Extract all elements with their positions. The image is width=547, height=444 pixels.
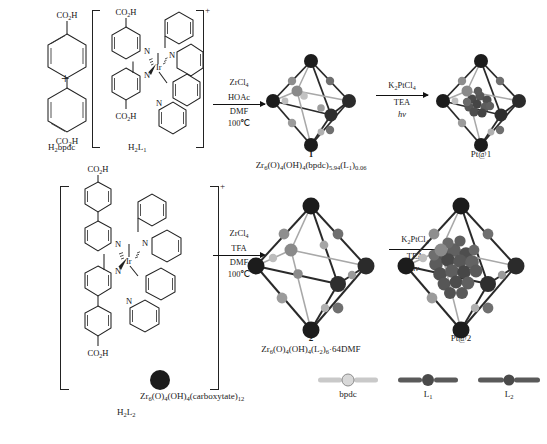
arrow2a-solvent: DMF (230, 256, 248, 268)
oct2-back-edges (256, 206, 366, 330)
legend-item-l2 (478, 372, 540, 388)
arrow1a-reagent1: ZrCl4 (229, 77, 248, 92)
mof-1-number: 1 (263, 150, 359, 159)
label-pt-at-1: Pt@1 (433, 150, 529, 159)
label-pt-at-2: Pt@2 (398, 334, 524, 343)
legend-item-node (148, 368, 172, 392)
h2l2-structure: CO2H N N CO2H Ir (68, 180, 218, 392)
bpdc-rod-icon (318, 372, 378, 388)
l1-top-co2h: CO2H (116, 7, 137, 18)
right-bracket-l1 (196, 10, 204, 148)
left-bracket-l1 (92, 10, 100, 148)
label-h2bpdc: H2bpdc (48, 143, 75, 153)
arrow1a-solvent: DMF (230, 105, 248, 117)
label-h2l1: H2L1 (128, 143, 147, 153)
mof-1-formula: Zr6(O)4(OH)4(bpdc)5.94(L1)0.06 (231, 161, 391, 171)
l2-bottom-co2h: CO2H (88, 348, 109, 359)
l2-top-co2h: CO2H (88, 164, 109, 175)
l1-n4: N (156, 98, 162, 108)
arrow1b-reagent2: TEA (394, 96, 411, 108)
arrow2a-temperature: 100℃ (228, 268, 251, 280)
l2-charge: + (220, 182, 225, 191)
legend-label-l1: L1 (398, 390, 458, 400)
l1-bottom-co2h: CO2H (116, 111, 137, 122)
reactant-h2l2: + CO2H N N CO2H Ir (60, 180, 218, 392)
l1-charge: + (205, 6, 210, 15)
legend-label-node: Zr6(O)4(OH)4(carboxytate)12 (140, 392, 244, 402)
arrow-row1-step1: ZrCl4 HOAc DMF 100℃ (213, 77, 265, 129)
plus-sign-row1: + (61, 70, 69, 87)
zr-node-icon (148, 368, 172, 392)
octpt2-nanoparticle (428, 235, 482, 299)
mof-1-octahedron (263, 55, 359, 151)
mof-2-formula: Zr6(O)4(OH)4(L2)6·64DMF (231, 345, 391, 355)
l1-rod-icon (398, 372, 458, 388)
arrow2a-reagent1: ZrCl4 (229, 228, 248, 243)
arrow1a-temperature: 100℃ (228, 117, 251, 129)
arrow2a-reagent2: TFA (231, 243, 246, 255)
arrow1b-shaft (376, 95, 428, 96)
octahedron-2 (248, 198, 374, 338)
l2-n1: N (115, 239, 121, 249)
octahedron-pt2 (398, 198, 524, 338)
arrow1b-reagent1: K2PtCl4 (388, 80, 415, 95)
arrow-row1-step2: K2PtCl4 TEA hv (376, 80, 428, 120)
right-bracket-l2 (210, 186, 219, 390)
legend-label-bpdc: bpdc (318, 390, 378, 399)
l2-n3: N (142, 238, 148, 248)
mof-pt1-octahedron (433, 55, 529, 151)
l1-n1: N (144, 46, 150, 56)
arrow1a-shaft (213, 104, 265, 105)
oct2-front-edges (256, 206, 366, 330)
legend-label-l2: L2 (478, 390, 540, 400)
l1-n3: N (169, 50, 175, 60)
mof-2-number: 2 (248, 334, 374, 343)
legend-item-l1 (398, 372, 458, 388)
l2-rod-icon (478, 372, 540, 388)
reactant-h2l1: + CO2H N N CO2H Ir (92, 6, 203, 150)
arrow1b-light: hv (398, 108, 406, 120)
h2bpdc-top-co2h: CO2H (57, 10, 78, 21)
legend-item-bpdc (318, 372, 378, 388)
l2-n4: N (126, 296, 132, 306)
l2-ir-center: Ir (126, 256, 132, 266)
label-h2l2: H2L2 (117, 408, 136, 418)
octahedron-pt1 (433, 55, 529, 151)
h2l1-structure: CO2H N N CO2H Ir N (99, 6, 203, 150)
mof-2-octahedron (248, 198, 374, 338)
left-bracket-l2 (60, 186, 69, 390)
oct1-vertices (266, 54, 356, 152)
octahedron-1 (263, 55, 359, 151)
mof-pt2-octahedron (398, 198, 524, 338)
arrow1a-reagent2: HOAc (228, 92, 250, 104)
l1-ir-center: Ir (156, 62, 162, 72)
